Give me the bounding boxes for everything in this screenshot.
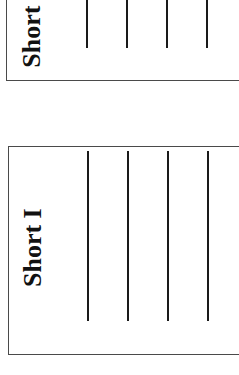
writing-card-top: Short I xyxy=(6,0,239,81)
card-label: Short I xyxy=(18,208,48,287)
writing-line xyxy=(126,0,128,48)
writing-line xyxy=(206,0,208,48)
writing-line xyxy=(86,0,88,48)
writing-line xyxy=(167,151,169,321)
writing-line xyxy=(127,151,129,321)
card-label: Short I xyxy=(17,0,47,68)
writing-line xyxy=(207,151,209,321)
writing-line xyxy=(166,0,168,48)
writing-line xyxy=(87,151,89,321)
writing-card-bottom: Short I xyxy=(8,146,239,355)
